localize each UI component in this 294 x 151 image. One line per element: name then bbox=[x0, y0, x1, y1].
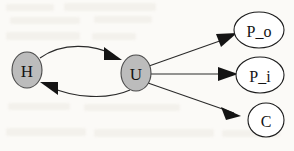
node-u-label: U bbox=[130, 65, 142, 84]
node-h-label: H bbox=[21, 62, 33, 81]
graph-svg: H U P_o P_i C bbox=[0, 0, 294, 151]
edge-u-to-p-i-arrowhead bbox=[218, 67, 238, 81]
node-p-o[interactable]: P_o bbox=[234, 12, 284, 48]
edge-u-to-c bbox=[148, 83, 241, 120]
edge-u-to-p-i bbox=[151, 67, 238, 81]
edge-u-to-c-arrowhead bbox=[221, 107, 241, 120]
edge-u-to-p-o bbox=[149, 33, 237, 66]
node-c[interactable]: C bbox=[248, 103, 284, 137]
edge-u-to-h bbox=[40, 82, 130, 96]
node-p-i[interactable]: P_i bbox=[236, 57, 284, 93]
edge-h-to-u-arrowhead bbox=[104, 47, 122, 60]
node-p-o-label: P_o bbox=[247, 23, 272, 40]
node-h[interactable]: H bbox=[12, 52, 42, 88]
node-p-i-label: P_i bbox=[249, 68, 271, 85]
diagram-canvas: H U P_o P_i C bbox=[0, 0, 294, 151]
edge-u-to-p-o-path bbox=[149, 37, 231, 66]
edge-u-to-h-arrowhead bbox=[40, 82, 58, 95]
edge-u-to-p-o-arrowhead bbox=[216, 33, 237, 47]
nodes-layer: H U P_o P_i C bbox=[12, 12, 284, 137]
edge-u-to-h-path bbox=[50, 87, 130, 96]
edge-h-to-u bbox=[40, 46, 122, 60]
node-c-label: C bbox=[261, 113, 272, 130]
node-u[interactable]: U bbox=[121, 55, 151, 91]
edge-u-to-c-path bbox=[148, 83, 234, 113]
edge-h-to-u-path bbox=[40, 46, 114, 58]
